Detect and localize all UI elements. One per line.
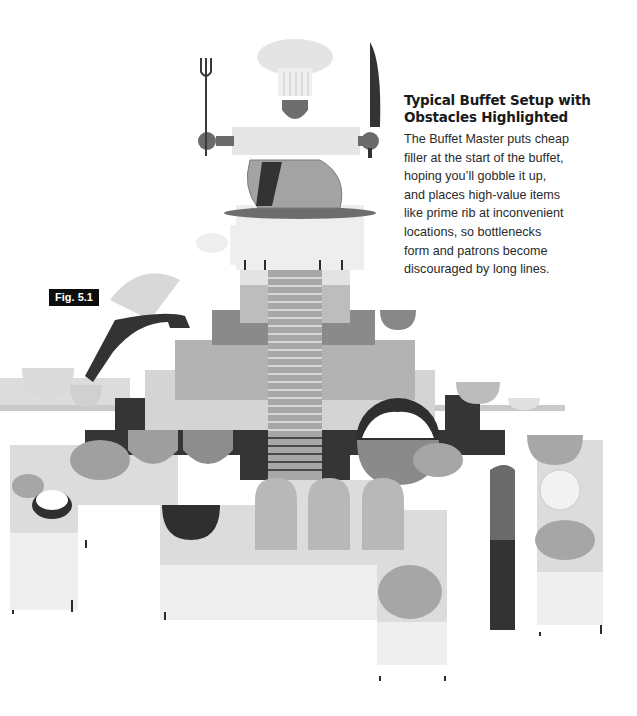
caption-line: form and patrons become	[404, 244, 548, 258]
caption-line: and places high-value items	[404, 188, 560, 202]
caption-line: hoping you’ll gobble it up,	[404, 169, 546, 183]
figure-label: Fig. 5.1	[49, 289, 99, 306]
chafing-dishes	[255, 478, 404, 550]
caption-line: The Buffet Master puts cheap	[404, 132, 569, 146]
caption-body: The Buffet Master puts cheap filler at t…	[404, 130, 634, 279]
caption-title: Typical Buffet Setup with Obstacles High…	[404, 92, 634, 126]
caption-block: Typical Buffet Setup with Obstacles High…	[404, 92, 634, 279]
caption-line: filler at the start of the buffet,	[404, 151, 563, 165]
center-runner	[268, 270, 322, 480]
chef-figure	[198, 39, 380, 270]
prime-rib	[224, 160, 376, 219]
caption-line: like prime rib at inconvenient	[404, 206, 564, 220]
caption-line: locations, so bottlenecks	[404, 225, 541, 239]
caption-line: discouraged by long lines.	[404, 262, 550, 276]
caption-title-line-2: Obstacles Highlighted	[404, 109, 568, 125]
caption-title-line-1: Typical Buffet Setup with	[404, 92, 591, 108]
